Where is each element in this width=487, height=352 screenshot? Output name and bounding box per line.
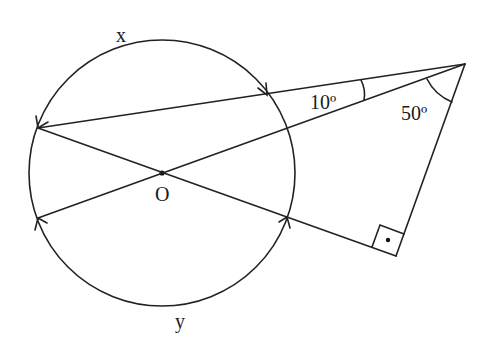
center-label-o: O (155, 183, 169, 205)
arc-label-x: x (116, 24, 126, 46)
angle-label-50: 50º (401, 102, 427, 124)
right-angle-marker (372, 225, 404, 247)
apex-to-right-angle (396, 64, 465, 256)
center-secant (38, 64, 465, 218)
angle-label-10: 10º (310, 91, 336, 113)
angle-arc-10 (361, 80, 365, 100)
arc-label-y: y (175, 310, 185, 333)
right-angle-dot (386, 238, 390, 242)
geometry-figure: x y O 10º 50º (0, 0, 487, 352)
diagram-canvas: x y O 10º 50º (0, 0, 487, 352)
diameter-line (38, 128, 396, 256)
angle-arc-50 (427, 79, 452, 102)
